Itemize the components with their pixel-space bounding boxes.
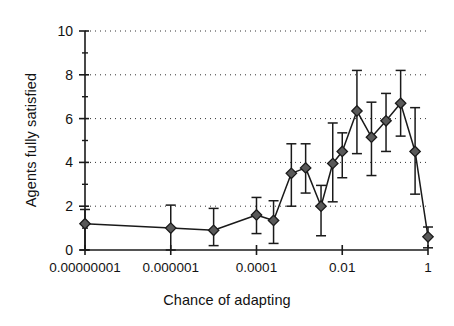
error-bars xyxy=(80,70,433,250)
svg-text:0.00000001: 0.00000001 xyxy=(49,260,120,275)
data-point-markers xyxy=(80,98,433,242)
svg-text:0.0001: 0.0001 xyxy=(236,260,277,275)
y-axis-tick-labels: 0246810 xyxy=(57,23,73,258)
svg-text:4: 4 xyxy=(65,154,73,170)
svg-text:1: 1 xyxy=(424,260,432,275)
x-axis-title: Chance of adapting xyxy=(0,292,454,308)
svg-text:8: 8 xyxy=(65,67,73,83)
y-axis-title: Agents fully satisfied xyxy=(23,25,39,255)
x-axis-tick-labels: 0.000000010.0000010.00010.011 xyxy=(49,260,431,275)
svg-text:10: 10 xyxy=(57,23,73,39)
svg-text:0.01: 0.01 xyxy=(329,260,355,275)
y-axis-ticks xyxy=(79,31,89,250)
svg-text:6: 6 xyxy=(65,111,73,127)
svg-text:0.000001: 0.000001 xyxy=(143,260,199,275)
svg-text:0: 0 xyxy=(65,242,73,258)
line-chart-plot: 0.000000010.0000010.00010.011 0246810 xyxy=(0,0,454,326)
chart-figure: 0.000000010.0000010.00010.011 0246810 Ch… xyxy=(0,0,454,326)
gridlines xyxy=(85,31,428,206)
svg-text:2: 2 xyxy=(65,198,73,214)
